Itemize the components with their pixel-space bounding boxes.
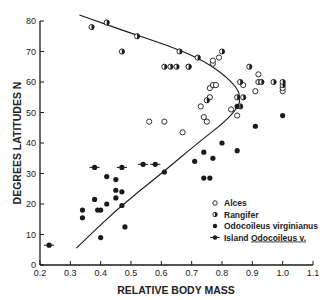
y-tick-label: 80	[26, 16, 36, 26]
y-tick-label: 10	[26, 230, 36, 240]
x-tick-label: 0.4	[94, 268, 107, 278]
y-axis-title: DEGREES LATITUDES N	[11, 82, 23, 205]
series-rangifer	[89, 20, 285, 109]
scatter-chart: 0.20.30.40.50.60.70.80.91.01.1 010203040…	[0, 0, 328, 300]
legend-item: Odocoileus virginianus	[213, 221, 318, 231]
legend-label: Odocoileus virginianus	[224, 221, 318, 231]
legend: AlcesRangiferOdocoileus virginianusIslan…	[210, 198, 318, 243]
legend-label: Rangifer	[224, 210, 259, 220]
x-axis-title: RELATIVE BODY MASS	[117, 284, 234, 296]
y-tick-label: 50	[26, 108, 36, 118]
series-island-odocoileus-v-	[44, 162, 160, 248]
y-tick-label: 70	[26, 47, 36, 57]
x-tick-label: 0.9	[246, 268, 259, 278]
y-tick-label: 40	[26, 138, 36, 148]
x-tick-label: 1.1	[307, 268, 320, 278]
y-tick-label: 0	[31, 260, 36, 270]
legend-item: Island Odocoileus v.	[210, 233, 306, 243]
legend-label: Island Odocoileus v.	[224, 233, 306, 243]
x-axis-ticks: 0.20.30.40.50.60.70.80.91.01.1	[34, 261, 320, 278]
y-tick-label: 20	[26, 199, 36, 209]
x-tick-label: 0.3	[64, 268, 77, 278]
x-tick-label: 0.7	[185, 268, 198, 278]
x-tick-label: 0.5	[125, 268, 138, 278]
series-odocoileus-virginianus	[80, 104, 285, 240]
y-tick-label: 30	[26, 169, 36, 179]
y-axis-ticks: 01020304050607080	[26, 16, 44, 270]
x-tick-label: 1.0	[276, 268, 289, 278]
legend-label: Alces	[224, 198, 247, 208]
legend-item: Alces	[213, 198, 247, 208]
x-tick-label: 0.8	[216, 268, 229, 278]
x-tick-label: 0.6	[155, 268, 168, 278]
legend-item: Rangifer	[213, 210, 259, 220]
y-tick-label: 60	[26, 77, 36, 87]
